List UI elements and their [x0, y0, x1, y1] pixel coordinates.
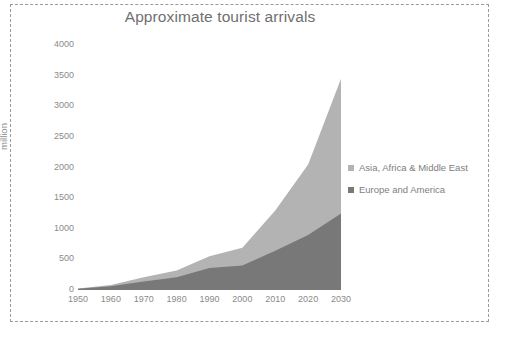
y-axis-tick: 1500: [34, 192, 74, 202]
legend-label: Europe and America: [359, 184, 445, 195]
y-axis-tick: 3500: [34, 70, 74, 80]
x-axis-tick: 1970: [127, 294, 161, 304]
plot-area: [78, 45, 341, 290]
y-axis-tick: 4000: [34, 39, 74, 49]
legend-item[interactable]: Asia, Africa & Middle East: [348, 162, 498, 173]
y-axis-label: million: [0, 123, 9, 150]
area-chart: Approximate tourist arrivals 05001000150…: [0, 0, 505, 345]
y-axis-tick: 0: [34, 284, 74, 294]
y-axis-tick: 500: [34, 253, 74, 263]
x-axis-tick: 1950: [61, 294, 95, 304]
legend-swatch-icon: [348, 165, 354, 171]
y-axis-tick: 2500: [34, 131, 74, 141]
chart-legend: Asia, Africa & Middle EastEurope and Ame…: [348, 162, 498, 206]
legend-item[interactable]: Europe and America: [348, 184, 498, 195]
x-axis-tick: 1980: [160, 294, 194, 304]
x-axis-tick: 2010: [258, 294, 292, 304]
y-axis-tick: 3000: [34, 100, 74, 110]
y-axis-tick: 1000: [34, 223, 74, 233]
plot-svg: [78, 45, 341, 290]
x-axis-tick: 2030: [324, 294, 358, 304]
x-axis-tick: 1960: [94, 294, 128, 304]
x-axis-tick: 1990: [193, 294, 227, 304]
x-axis-tick: 2000: [225, 294, 259, 304]
legend-label: Asia, Africa & Middle East: [359, 162, 468, 173]
chart-title: Approximate tourist arrivals: [60, 8, 380, 26]
legend-swatch-icon: [348, 187, 354, 193]
y-axis-tick-labels: 05001000150020002500300035004000: [30, 45, 74, 290]
x-axis-tick: 2020: [291, 294, 325, 304]
x-axis-tick-labels: 195019601970198019902000201020202030: [78, 294, 341, 310]
y-axis-tick: 2000: [34, 162, 74, 172]
